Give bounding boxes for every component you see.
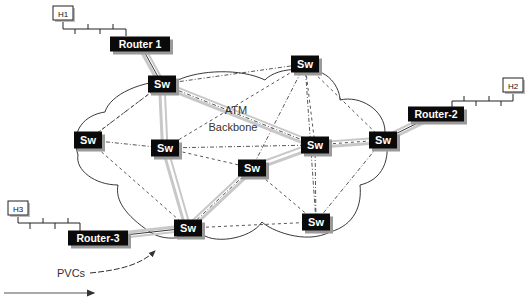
mesh-link-s8-s9	[188, 222, 316, 228]
switch-s6-label: Sw	[307, 139, 323, 151]
switch-s3-label: Sw	[80, 134, 96, 146]
router-1[interactable]: Router 1	[110, 37, 173, 55]
host-bus-h1	[63, 20, 126, 36]
switch-s7-label: Sw	[375, 134, 391, 146]
router-3-label: Router-3	[76, 232, 119, 244]
host-h3[interactable]: H3	[8, 201, 30, 217]
pvc-label: PVCs	[57, 267, 86, 279]
switch-s1[interactable]: Sw	[148, 76, 179, 96]
switch-s9-label: Sw	[308, 216, 324, 228]
backbone-label-line1: ATM	[225, 104, 247, 116]
switch-s7[interactable]: Sw	[369, 132, 400, 152]
switch-s5-label: Sw	[244, 162, 260, 174]
host-h1[interactable]: H1	[53, 6, 75, 22]
switch-s8-label: Sw	[180, 222, 196, 234]
switch-s4-label: Sw	[157, 142, 173, 154]
host-bus-h2	[452, 92, 513, 108]
router-2-label: Router-2	[414, 108, 457, 120]
host-h2-label: H2	[508, 82, 519, 91]
host-h3-label: H3	[13, 205, 24, 214]
switch-s2[interactable]: Sw	[291, 56, 322, 76]
pvc-pointer-arrow	[90, 251, 155, 273]
switch-s2-label: Sw	[297, 58, 313, 70]
router-3[interactable]: Router-3	[68, 231, 131, 249]
switch-s6[interactable]: Sw	[301, 137, 332, 157]
pvc-link-s4-s8	[163, 147, 191, 228]
mesh-link-s1-s2	[162, 64, 305, 84]
cloud-outline	[76, 70, 387, 240]
host-h2[interactable]: H2	[503, 78, 525, 94]
backbone-label-line2: Backbone	[209, 121, 258, 133]
switch-s8[interactable]: Sw	[174, 220, 205, 240]
router-1-label: Router 1	[119, 38, 162, 50]
switch-s3[interactable]: Sw	[74, 132, 105, 152]
atm-cloud	[76, 70, 387, 240]
switch-s5[interactable]: Sw	[238, 160, 269, 180]
host-h1-label: H1	[58, 10, 69, 19]
switch-s9[interactable]: Sw	[302, 214, 333, 234]
switch-s1-label: Sw	[154, 78, 170, 90]
atm-network-diagram: SwSwSwSwSwSwSwSwSwRouter 1Router-2Router…	[0, 0, 529, 300]
switch-s4[interactable]: Sw	[151, 140, 182, 160]
router-2[interactable]: Router-2	[408, 107, 467, 125]
host-bus-h3	[18, 215, 80, 232]
mesh-link-s4-s6	[165, 145, 315, 148]
